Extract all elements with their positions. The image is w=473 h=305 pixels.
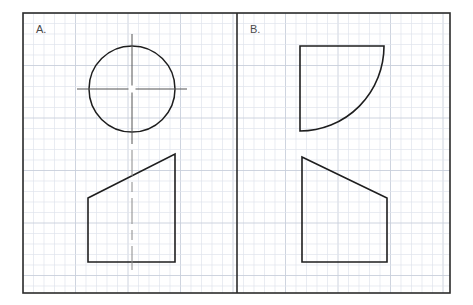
panel-b-label: B. [250,23,260,35]
drawing-sheet: A.B. [0,0,473,305]
panel-a-center-gap-mark [129,86,136,93]
technical-drawing-canvas: A.B. [0,0,473,305]
panel-a-label: A. [36,23,46,35]
